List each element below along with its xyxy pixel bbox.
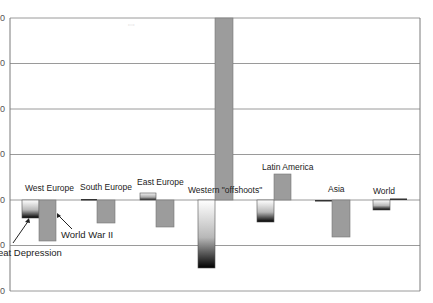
bar-ww2-east-europe (156, 200, 174, 227)
bar-gd-latin-america (257, 200, 274, 222)
bar-ww2-world (390, 199, 407, 201)
bar-gd-south-europe (81, 199, 97, 201)
bar-gd-asia (315, 200, 332, 202)
category-label: Asia (328, 184, 345, 194)
bar-ww2-latin-america (274, 174, 291, 200)
annotation-great-depression: eat Depression (0, 247, 62, 258)
y-tick-label: 0 (0, 13, 5, 23)
bar-ww2-asia (332, 200, 350, 237)
bar-gd-world (373, 200, 390, 210)
y-tick-label: 0 (0, 58, 5, 68)
y-tick-label: 0 (0, 149, 5, 159)
category-labels: West Europe South Europe East Europe Wes… (25, 162, 395, 196)
bar-ww2-west-europe (39, 200, 56, 241)
bar-gd-western-offshoots (198, 200, 215, 268)
category-label: Western "offshoots" (188, 185, 262, 195)
category-label: West Europe (25, 183, 74, 193)
y-tick-label: 0 (0, 104, 5, 114)
y-tick-label: 0 (0, 195, 5, 205)
bar-gd-west-europe (22, 200, 39, 218)
ghost-text: ꟷ (128, 21, 135, 30)
arrowhead-icon (25, 218, 30, 223)
category-label: South Europe (80, 182, 132, 192)
bar-ww2-western-offshoots (215, 18, 233, 200)
category-label: World (373, 186, 395, 196)
bar-gd-east-europe (140, 193, 156, 200)
arrow-world-war-ii (58, 215, 72, 229)
annotation-world-war-ii: World War II (61, 229, 113, 240)
category-label: East Europe (137, 177, 184, 187)
category-label: Latin America (262, 162, 314, 172)
annotations: eat Depression World War II (0, 213, 113, 258)
y-tick-label: 0 (0, 286, 5, 296)
arrow-great-depression (13, 220, 29, 243)
bar-ww2-south-europe (97, 200, 115, 223)
bar-chart: ꟷ 0 0 0 0 0 0 0 (0, 0, 433, 303)
